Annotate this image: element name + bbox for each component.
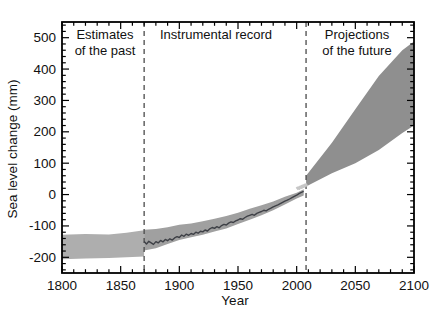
x-tick-label-1900: 1900 [164,278,194,293]
x-axis-title: Year [185,293,285,308]
y-tick-label-0: 0 [48,187,56,202]
x-tick-label-1850: 1850 [106,278,136,293]
sea-level-figure: 1800185019001950200020502100-200-1000100… [0,0,441,320]
x-tick-label-2050: 2050 [340,278,370,293]
y-axis-title: Sea level change (mm) [5,39,21,259]
x-tick-label-2100: 2100 [399,278,429,293]
y-tick-label--100: -100 [29,218,56,233]
y-tick-label-100: 100 [33,156,56,171]
y-tick-label-400: 400 [33,62,56,77]
label-instrumental-record: Instrumental record [136,27,296,43]
label-projections-of-the-future: Projections of the future [292,27,422,59]
x-tick-label-2000: 2000 [282,278,312,293]
x-tick-label-1800: 1800 [47,278,77,293]
past-estimates-band [62,230,144,259]
x-tick-label-1950: 1950 [223,278,253,293]
y-tick-label-200: 200 [33,124,56,139]
y-tick-label--200: -200 [29,250,56,265]
y-tick-label-300: 300 [33,93,56,108]
